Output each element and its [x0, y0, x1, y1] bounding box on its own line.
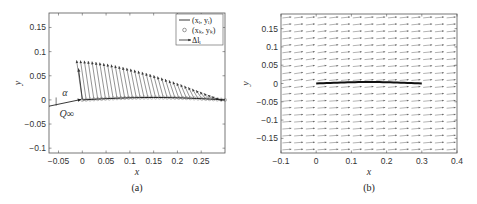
y-tick-label: 0.15: [29, 22, 46, 32]
y-tick-label: −0.05: [256, 97, 278, 107]
axes-frame: [281, 14, 457, 153]
y-tick-label: −0.1: [261, 115, 278, 125]
y-tick-label: 0: [273, 79, 278, 89]
y-tick-label: −0.15: [256, 133, 278, 143]
x-tick-label: 0.2: [381, 156, 393, 166]
x-tick-label: 0.25: [193, 156, 210, 166]
x-tick-label: 0.4: [451, 156, 463, 166]
y-axis-label: y: [12, 80, 23, 86]
y-tick-label: 0.1: [34, 47, 46, 57]
figure: −0.0500.050.10.150.20.250.150.10.050−0.0…: [0, 0, 477, 204]
legend-entry: Δlᵢ: [192, 36, 201, 45]
x-axis-label: x: [366, 166, 372, 177]
y-tick-label: 0.05: [261, 60, 278, 70]
chart-panel-b: −0.100.10.20.30.40.150.10.050−0.05−0.1−0…: [240, 14, 463, 194]
y-tick-label: 0.05: [29, 71, 46, 81]
alpha-annotation: α: [62, 87, 68, 98]
y-tick-label: −0.05: [24, 119, 46, 129]
x-tick-label: 0.05: [98, 156, 115, 166]
y-tick-label: 0: [41, 95, 46, 105]
x-tick-label: 0: [80, 156, 85, 166]
legend-entry: (xᵢ, yᵢ): [192, 16, 212, 25]
chart-panel-a: −0.0500.050.10.150.20.250.150.10.050−0.0…: [12, 13, 227, 194]
y-tick-label: −0.1: [29, 143, 46, 153]
x-tick-label: 0.1: [345, 156, 357, 166]
panel-caption: (b): [363, 182, 375, 194]
x-axis-label: x: [134, 166, 140, 177]
q-inf-annotation: Q∞: [59, 108, 73, 119]
x-tick-label: 0.1: [124, 156, 136, 166]
x-tick-label: 0.3: [416, 156, 428, 166]
x-tick-label: 0.2: [172, 156, 184, 166]
x-tick-label: −0.05: [48, 156, 70, 166]
x-tick-label: 0.15: [145, 156, 162, 166]
legend-entry: (xₖ, yₖ): [192, 26, 216, 35]
panel-caption: (a): [131, 182, 142, 194]
x-tick-label: 0: [314, 156, 319, 166]
y-tick-label: 0.1: [266, 42, 278, 52]
y-tick-label: 0.15: [261, 24, 278, 34]
legend: (xᵢ, yᵢ)(xₖ, yₖ)Δlᵢ: [176, 14, 223, 45]
y-axis-label: y: [240, 81, 251, 87]
x-tick-label: −0.1: [273, 156, 290, 166]
airfoil-line: [316, 82, 422, 83]
